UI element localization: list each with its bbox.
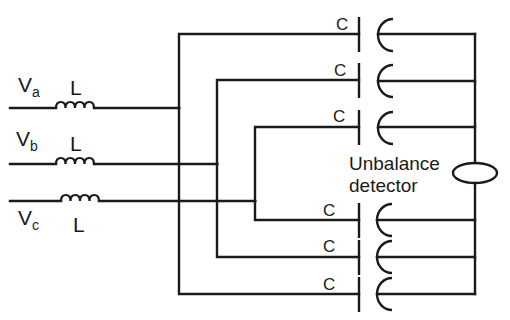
inductor-icon	[61, 195, 99, 201]
junction-dot	[215, 162, 218, 165]
circuit-diagram: Va L Vb L Vc L C C C	[0, 0, 510, 320]
phase-c: Vc L	[10, 195, 255, 236]
capacitor-label: C	[334, 61, 346, 80]
capacitor-label: C	[323, 275, 335, 294]
detector-label-line2: detector	[349, 175, 418, 196]
inner-bus-phase-c	[255, 127, 359, 220]
inductor-icon	[56, 158, 94, 164]
capacitor-label: C	[333, 107, 345, 126]
phase-b-inductor-label: L	[70, 132, 82, 155]
junction-dot	[177, 106, 180, 109]
unbalance-detector-icon	[453, 163, 497, 183]
detector-label-line1: Unbalance	[349, 153, 440, 174]
phase-c-voltage-label: Vc	[18, 206, 39, 233]
inductor-icon	[56, 102, 94, 108]
phase-a: Va L	[10, 73, 179, 108]
capacitor-label: C	[323, 237, 335, 256]
capacitor-label: C	[336, 15, 348, 34]
junction-dot	[253, 199, 256, 202]
capacitor-label: C	[323, 201, 335, 220]
phase-b-voltage-label: Vb	[16, 127, 38, 154]
phase-a-inductor-label: L	[70, 76, 82, 99]
phase-a-voltage-label: Va	[18, 73, 40, 100]
phase-c-inductor-label: L	[73, 213, 85, 236]
phase-b: Vb L	[10, 127, 217, 164]
